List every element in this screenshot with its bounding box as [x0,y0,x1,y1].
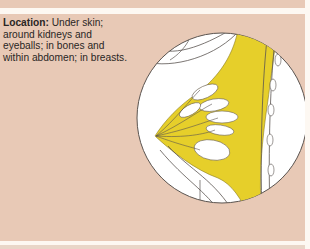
top-band [0,0,305,8]
bottom-band [0,245,305,249]
breast-cross-section-illustration [0,14,305,241]
content-panel: Location: Under skin; around kidneys and… [0,14,305,241]
